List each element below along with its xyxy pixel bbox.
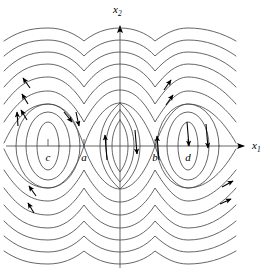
- arrow-orbit-c-down: [76, 112, 79, 126]
- arrow-orbit-c-up: [17, 112, 18, 126]
- equilibrium-label-d: d: [185, 152, 191, 163]
- phase-portrait-canvas: [0, 0, 270, 272]
- x1-axis-label: x1: [252, 140, 261, 154]
- arrow-upper-right-2: [166, 95, 173, 105]
- x2-axis-label: x2: [113, 4, 122, 18]
- arrow-center-origin-right: [135, 130, 137, 154]
- separatrix-upper-mid: [84, 103, 155, 146]
- arrow-lower-left-1: [29, 186, 36, 196]
- equilibrium-label-b: b: [152, 152, 158, 163]
- arrow-upper-left-1: [23, 78, 30, 88]
- arrow-upper-left-2: [22, 94, 28, 104]
- equilibrium-label-c: c: [46, 152, 51, 163]
- phase-portrait-figure: x1 x2 c a b d: [0, 0, 270, 272]
- direction-arrows: [17, 78, 233, 213]
- equilibrium-label-a: a: [81, 152, 87, 163]
- separatrix-lower-mid: [84, 146, 155, 189]
